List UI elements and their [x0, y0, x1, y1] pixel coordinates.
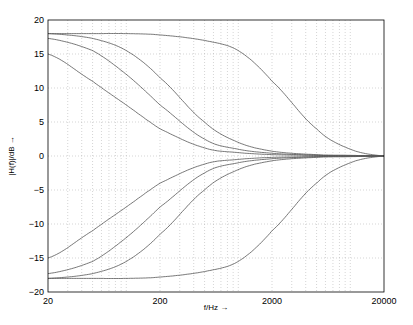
y-tick-label: −15	[29, 253, 44, 263]
curve-boost-fc-1	[48, 54, 384, 156]
curve-cut-fc-3	[48, 156, 384, 278]
x-axis-label: f/Hz →	[204, 303, 228, 312]
y-tick-label: 0	[39, 151, 44, 161]
y-tick-label: 20	[34, 15, 44, 25]
y-tick-label: −5	[34, 185, 44, 195]
shelving-filter-chart: −20−15−10−505101520 20200200020000 f/Hz …	[0, 0, 413, 325]
x-tick-label: 200	[152, 296, 167, 306]
x-tick-label: 20	[43, 296, 53, 306]
y-axis-ticks: −20−15−10−505101520	[29, 15, 44, 297]
curve-boost-fc-2	[48, 38, 384, 156]
curve-boost-fc-3	[48, 34, 384, 156]
curve-cut-fc-1	[48, 156, 384, 258]
curve-cut-fc-2	[48, 156, 384, 274]
y-tick-label: 15	[34, 49, 44, 59]
y-tick-label: 5	[39, 117, 44, 127]
y-tick-label: −10	[29, 219, 44, 229]
curve-cut-high-fc	[48, 156, 384, 279]
x-tick-label: 20000	[371, 296, 396, 306]
x-tick-label: 2000	[262, 296, 282, 306]
y-tick-label: −20	[29, 287, 44, 297]
y-axis-label: |H(f)|/dB →	[7, 136, 16, 176]
curve-boost-high-fc	[48, 34, 384, 157]
y-tick-label: 10	[34, 83, 44, 93]
